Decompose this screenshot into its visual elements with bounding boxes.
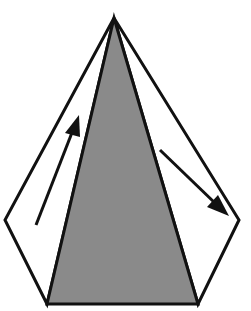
pyramid-diagram — [0, 0, 251, 311]
